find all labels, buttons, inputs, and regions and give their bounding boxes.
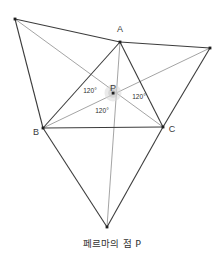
cevian-apexAC-to-B bbox=[43, 48, 210, 128]
label-a: A bbox=[117, 24, 123, 34]
fermat-diagram-svg: A B C P 120° 120° 120° bbox=[0, 0, 224, 263]
edge-b-to-apexAB bbox=[15, 19, 43, 128]
fermat-point-figure: A B C P 120° 120° 120° 페르마의 점 P bbox=[0, 0, 224, 263]
vertex-dot-a bbox=[119, 41, 122, 44]
edge-c-to-apexAC bbox=[163, 48, 210, 127]
vertex-dot-apex-ab bbox=[14, 18, 17, 21]
angle-label-left: 120° bbox=[83, 87, 97, 94]
vertex-dot-group bbox=[14, 18, 212, 229]
label-b: B bbox=[33, 127, 39, 137]
edge-b-to-apexBC bbox=[43, 128, 107, 227]
angle-label-right: 120° bbox=[132, 93, 146, 100]
edge-ca bbox=[120, 42, 163, 127]
figure-caption: 페르마의 점 P bbox=[0, 236, 224, 250]
vertex-dot-b bbox=[42, 127, 45, 130]
edge-ab bbox=[43, 42, 120, 128]
edge-c-to-apexBC bbox=[107, 127, 163, 227]
vertex-dot-apex-ac bbox=[209, 47, 212, 50]
triangle-abc-group bbox=[43, 42, 163, 128]
label-p: P bbox=[110, 83, 116, 93]
vertex-dot-apex-bc bbox=[106, 226, 109, 229]
angle-label-bottom: 120° bbox=[95, 107, 109, 114]
edge-a-to-apexAC bbox=[120, 42, 210, 48]
vertex-dot-c bbox=[162, 126, 165, 129]
cevian-apexBC-to-A bbox=[107, 42, 120, 227]
edge-bc bbox=[43, 127, 163, 128]
label-c: C bbox=[169, 124, 176, 134]
